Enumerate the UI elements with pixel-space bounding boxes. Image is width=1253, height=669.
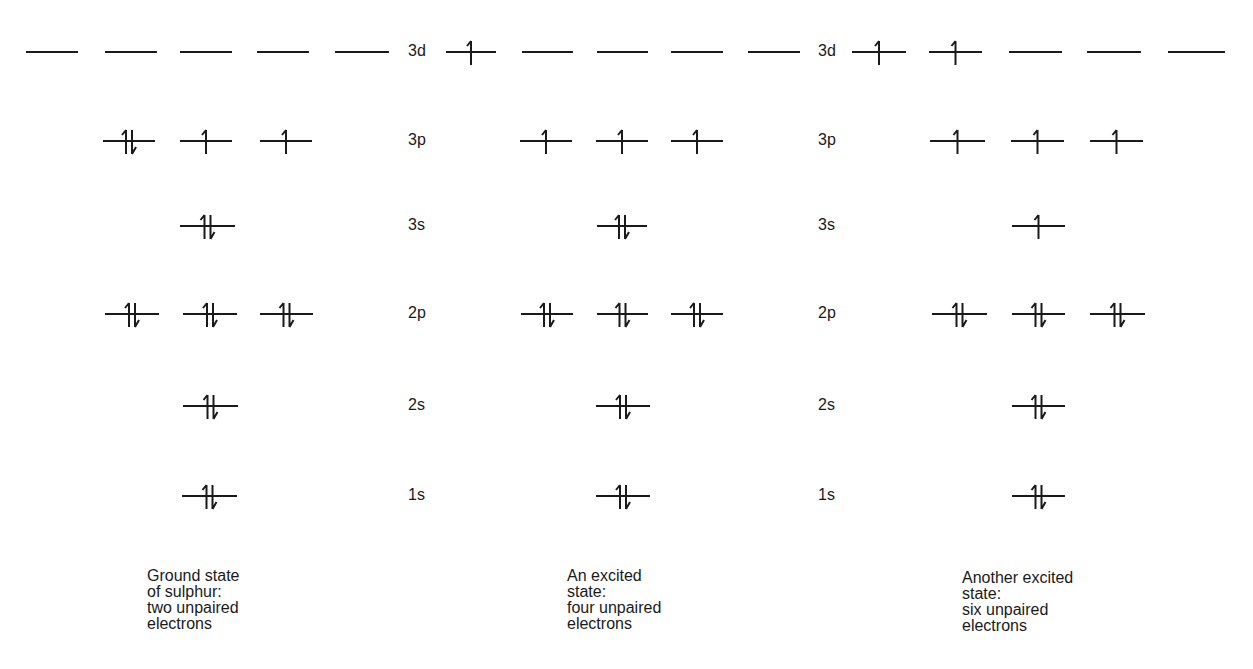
orbital-3p-1	[103, 132, 155, 150]
spin-up-arrow	[952, 41, 956, 65]
orbital-3s-1	[597, 217, 647, 235]
orbital-2s-1	[1012, 397, 1065, 415]
level-label-2p: 2p	[818, 304, 836, 322]
orbital-3p-2	[180, 132, 232, 150]
orbital-1s-1	[182, 487, 237, 505]
orbital-3p-2	[596, 132, 648, 150]
orbital-3d-4	[1087, 43, 1141, 61]
orbital-3p-2	[1011, 132, 1064, 150]
caption-line: of sulphur:	[147, 584, 240, 600]
spin-up-arrow	[542, 130, 546, 154]
orbital-3p-1	[520, 132, 572, 150]
orbital-2p-1	[521, 305, 573, 323]
orbital-3d-2	[522, 43, 573, 61]
state-caption: An excitedstate:four unpairedelectrons	[567, 568, 661, 632]
caption-line: electrons	[567, 616, 661, 632]
orbital-3d-1	[446, 43, 496, 61]
orbital-2p-1	[105, 305, 159, 323]
orbital-3s-1	[180, 217, 235, 235]
caption-line: Another excited	[962, 570, 1073, 586]
orbital-3d-5	[748, 43, 800, 61]
orbital-2p-2	[183, 305, 237, 323]
level-label-3d: 3d	[818, 42, 836, 60]
level-label-3s: 3s	[408, 216, 425, 234]
orbital-1s-1	[596, 487, 650, 505]
orbital-line	[180, 51, 232, 53]
spin-up-arrow	[1034, 130, 1038, 154]
orbital-3d-4	[257, 43, 309, 61]
orbital-line	[105, 51, 157, 53]
caption-line: electrons	[147, 616, 240, 632]
orbital-3d-4	[671, 43, 723, 61]
orbital-3p-3	[671, 132, 723, 150]
orbital-3d-3	[597, 43, 648, 61]
caption-line: Ground state	[147, 568, 240, 584]
level-label-3s: 3s	[818, 216, 835, 234]
orbital-line	[257, 51, 309, 53]
caption-line: four unpaired	[567, 600, 661, 616]
spin-up-arrow	[875, 41, 879, 65]
spin-up-arrow	[1035, 215, 1039, 239]
orbital-2s-1	[596, 397, 650, 415]
orbital-2p-3	[1090, 305, 1145, 323]
level-label-1s: 1s	[818, 486, 835, 504]
orbital-line	[1168, 51, 1225, 53]
spin-up-arrow	[693, 130, 697, 154]
orbital-line	[1009, 51, 1062, 53]
orbital-3p-1	[930, 132, 985, 150]
orbital-line	[597, 51, 648, 53]
state-caption: Ground stateof sulphur:two unpairedelect…	[147, 568, 240, 632]
orbital-3d-1	[852, 43, 906, 61]
level-label-3p: 3p	[818, 131, 836, 149]
orbital-3p-3	[1090, 132, 1143, 150]
spin-up-arrow	[618, 130, 622, 154]
caption-line: state:	[567, 584, 661, 600]
orbital-line	[335, 51, 389, 53]
spin-up-arrow	[1113, 130, 1117, 154]
caption-line: electrons	[962, 618, 1073, 634]
orbital-2p-3	[260, 305, 313, 323]
orbital-3d-3	[180, 43, 232, 61]
orbital-2p-2	[597, 305, 648, 323]
orbital-line	[671, 51, 723, 53]
spin-up-arrow	[954, 130, 958, 154]
orbital-3d-2	[929, 43, 982, 61]
orbital-3d-3	[1009, 43, 1062, 61]
orbital-3d-5	[1168, 43, 1225, 61]
caption-line: state:	[962, 586, 1073, 602]
level-label-1s: 1s	[408, 486, 425, 504]
orbital-3d-5	[335, 43, 389, 61]
orbital-3d-1	[26, 43, 78, 61]
level-label-2p: 2p	[408, 304, 426, 322]
orbital-2p-1	[932, 305, 987, 323]
spin-up-arrow	[467, 41, 471, 65]
orbital-line	[1087, 51, 1141, 53]
caption-line: six unpaired	[962, 602, 1073, 618]
orbital-1s-1	[1012, 487, 1065, 505]
caption-line: An excited	[567, 568, 661, 584]
orbital-line	[26, 51, 78, 53]
level-label-3p: 3p	[408, 131, 426, 149]
orbital-2p-2	[1012, 305, 1065, 323]
orbital-line	[748, 51, 800, 53]
orbital-3d-2	[105, 43, 157, 61]
level-label-2s: 2s	[408, 396, 425, 414]
spin-up-arrow	[282, 130, 286, 154]
orbital-2s-1	[183, 397, 238, 415]
level-label-2s: 2s	[818, 396, 835, 414]
orbital-2p-3	[671, 305, 723, 323]
orbital-3p-3	[260, 132, 312, 150]
orbital-line	[522, 51, 573, 53]
spin-up-arrow	[202, 130, 206, 154]
level-label-3d: 3d	[408, 42, 426, 60]
caption-line: two unpaired	[147, 600, 240, 616]
orbital-3s-1	[1012, 217, 1065, 235]
state-caption: Another excitedstate:six unpairedelectro…	[962, 570, 1073, 634]
